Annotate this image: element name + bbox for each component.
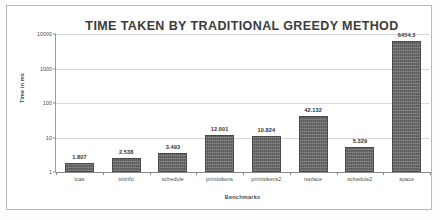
bar <box>205 135 234 172</box>
y-axis-title: Time in ms <box>19 73 25 103</box>
y-axis-tick-label: 10000 <box>37 31 52 37</box>
bar-value-label: 6454.3 <box>383 32 430 38</box>
bar-group: 42.132replace <box>290 34 337 172</box>
x-axis-category-label: space <box>378 176 436 182</box>
bar-group: 12.001printtokens <box>196 34 243 172</box>
bar-value-label: 42.132 <box>290 107 337 113</box>
bar-value-label: 1.807 <box>56 154 103 160</box>
x-axis-tick-mark <box>243 172 244 175</box>
chart-figure: TIME TAKEN BY TRADITIONAL GREEDY METHOD … <box>0 0 440 220</box>
bar-value-label: 12.001 <box>196 126 243 132</box>
bar-group: 5.329schedule2 <box>337 34 384 172</box>
x-axis-tick-mark <box>196 172 197 175</box>
chart-frame: TIME TAKEN BY TRADITIONAL GREEDY METHOD … <box>6 5 432 210</box>
bar-group: 6454.3space <box>383 34 430 172</box>
x-axis-tick-mark <box>150 172 151 175</box>
x-axis-tick-mark <box>290 172 291 175</box>
chart-title: TIME TAKEN BY TRADITIONAL GREEDY METHOD <box>47 19 437 33</box>
bar <box>392 41 421 172</box>
bar <box>252 136 281 172</box>
bar-value-label: 10.824 <box>243 127 290 133</box>
bar <box>345 147 374 172</box>
y-axis-tick-label: 100 <box>43 100 52 106</box>
bar-value-label: 3.493 <box>150 144 197 150</box>
bar-group: 10.824printtokens2 <box>243 34 290 172</box>
bar-value-label: 2.538 <box>103 149 150 155</box>
x-axis-tick-mark <box>103 172 104 175</box>
plot-area: 110100100010000 1.807tcas2.538totinfo3.4… <box>55 34 430 172</box>
bar <box>158 153 187 172</box>
bar-group: 1.807tcas <box>56 34 103 172</box>
x-axis-title: Benchmarks <box>55 194 430 200</box>
x-axis-tick-mark <box>383 172 384 175</box>
y-axis-tick-label: 1000 <box>40 66 52 72</box>
bar <box>112 158 141 172</box>
x-axis-tick-mark <box>337 172 338 175</box>
y-axis-tick-label: 10 <box>46 135 52 141</box>
bar-group: 3.493schedule <box>150 34 197 172</box>
x-axis-tick-mark <box>56 172 57 175</box>
bar-series: 1.807tcas2.538totinfo3.493schedule12.001… <box>56 34 430 172</box>
bar-group: 2.538totinfo <box>103 34 150 172</box>
x-axis-tick-mark <box>430 172 431 175</box>
y-axis-tick-label: 1 <box>49 169 52 175</box>
bar-value-label: 5.329 <box>337 138 384 144</box>
bar <box>65 163 94 172</box>
bar <box>299 116 328 172</box>
